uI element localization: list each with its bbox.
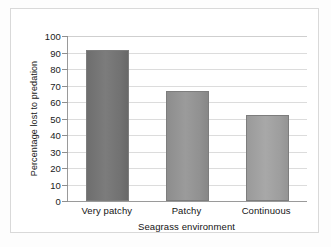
bar bbox=[246, 115, 289, 201]
y-axis-tick-label: 70 bbox=[50, 80, 61, 91]
y-axis-tick-mark bbox=[62, 36, 68, 37]
y-axis-tick-mark bbox=[62, 86, 68, 87]
y-axis-tick-mark bbox=[62, 201, 68, 202]
y-axis-tick-mark bbox=[62, 135, 68, 136]
y-axis-tick-label: 30 bbox=[50, 146, 61, 157]
bar bbox=[86, 50, 129, 201]
x-axis-title: Seagrass environment bbox=[67, 221, 306, 232]
gridline bbox=[68, 36, 307, 37]
y-axis-tick-mark bbox=[62, 102, 68, 103]
y-axis-tick-mark bbox=[62, 185, 68, 186]
x-axis-tick-label: Continuous bbox=[206, 205, 326, 216]
y-axis-tick-label: 80 bbox=[50, 64, 61, 75]
y-axis-tick-mark bbox=[62, 69, 68, 70]
figure-frame: Percentage lost to predation 01020304050… bbox=[10, 8, 319, 233]
y-axis-tick-label: 100 bbox=[45, 31, 61, 42]
y-axis-tick-label: 50 bbox=[50, 113, 61, 124]
y-axis-title: Percentage lost to predation bbox=[27, 36, 41, 201]
y-axis-tick-mark bbox=[62, 168, 68, 169]
y-axis-tick-label: 90 bbox=[50, 47, 61, 58]
y-axis-tick-mark bbox=[62, 119, 68, 120]
y-axis-tick-label: 40 bbox=[50, 130, 61, 141]
y-axis-tick-label: 60 bbox=[50, 97, 61, 108]
y-axis-tick-label: 10 bbox=[50, 179, 61, 190]
bar bbox=[166, 91, 209, 201]
figure-container: Percentage lost to predation 01020304050… bbox=[0, 0, 331, 247]
y-axis-tick-label: 20 bbox=[50, 163, 61, 174]
plot-area: 0102030405060708090100 bbox=[67, 36, 307, 202]
y-axis-tick-mark bbox=[62, 152, 68, 153]
y-axis-tick-mark bbox=[62, 53, 68, 54]
